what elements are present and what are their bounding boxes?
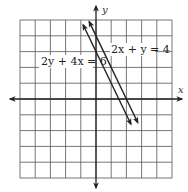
y-axis-label: y	[101, 4, 108, 15]
x-axis-label: x	[178, 84, 184, 95]
line-label-2y-4x-6: 2y + 4x = 6	[41, 55, 107, 68]
line-label-2x-y-4: 2x + y = 4	[111, 43, 170, 56]
series-lines	[83, 22, 138, 125]
line-label-group: 2y + 4x = 6 2x + y = 4	[39, 43, 170, 68]
coordinate-plane: x y 2y + 4x = 6 2x + y = 4	[0, 0, 188, 192]
line-2y-4x-6	[83, 25, 131, 125]
